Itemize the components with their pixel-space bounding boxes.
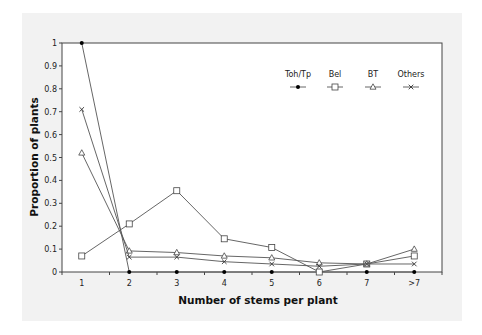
x-tick-label: 5 — [269, 279, 274, 288]
y-tick-label: 0.8 — [44, 85, 57, 94]
y-axis-label: Proportion of plants — [28, 97, 40, 216]
data-point — [365, 270, 369, 274]
legend-marker — [332, 84, 338, 90]
data-point — [412, 270, 416, 274]
legend-label: BT — [368, 70, 378, 79]
data-point — [175, 270, 179, 274]
y-tick-label: 0.7 — [44, 108, 57, 117]
x-axis-label: Number of stems per plant — [178, 294, 338, 306]
legend-marker — [296, 85, 300, 89]
data-point — [269, 244, 275, 250]
y-tick-label: 0.3 — [44, 199, 57, 208]
data-point — [221, 236, 227, 242]
data-point — [80, 41, 84, 45]
legend-label: Bel — [329, 70, 342, 79]
y-tick-label: 0.2 — [44, 222, 57, 231]
x-tick-label: 1 — [79, 279, 84, 288]
x-tick-label: 7 — [364, 279, 369, 288]
x-tick-label: 4 — [222, 279, 227, 288]
y-tick-label: 0.9 — [44, 62, 57, 71]
data-point — [174, 188, 180, 194]
legend-label: Toh/Tp — [284, 70, 311, 79]
y-tick-label: 0.1 — [44, 245, 57, 254]
data-point — [126, 221, 132, 227]
x-tick-label: 3 — [174, 279, 179, 288]
data-point — [222, 270, 226, 274]
y-tick-label: 0.6 — [44, 131, 57, 140]
data-point — [79, 253, 85, 259]
legend-label: Others — [398, 70, 425, 79]
x-tick-label: >7 — [408, 279, 420, 288]
y-tick-label: 1 — [52, 39, 57, 48]
data-point — [270, 270, 274, 274]
x-tick-label: 2 — [127, 279, 132, 288]
data-point — [411, 253, 417, 259]
data-point — [127, 270, 131, 274]
line-chart: 00.10.20.30.40.50.60.70.80.911234567>7 T… — [0, 0, 482, 335]
x-tick-label: 6 — [317, 279, 322, 288]
data-point — [316, 269, 322, 275]
y-tick-label: 0 — [52, 268, 57, 277]
plot-area — [62, 43, 442, 272]
y-tick-label: 0.5 — [44, 154, 57, 163]
y-tick-label: 0.4 — [44, 176, 57, 185]
